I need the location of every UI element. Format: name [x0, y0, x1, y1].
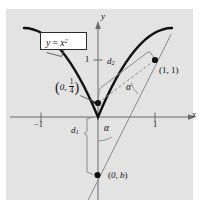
tick-label-x-1: 1	[153, 120, 157, 129]
y-axis-label: y	[101, 12, 105, 21]
x-axis-label: x	[192, 110, 196, 119]
tick-label-y-1: 1	[85, 55, 89, 64]
equation-exponent: 2	[65, 37, 68, 44]
angle-label-alpha-upper: α	[126, 83, 131, 93]
point-label-focus: (0, 14)	[55, 78, 79, 95]
point-label-curve-point: (1, 1)	[159, 66, 179, 75]
tick-label-x-minus1: −1	[34, 120, 43, 129]
figure-canvas	[0, 0, 215, 215]
d2-subscript: 2	[112, 59, 115, 66]
equation-callout-box: y = x2	[40, 32, 87, 50]
point-label-b: (0, b)	[108, 171, 128, 180]
point-b	[94, 172, 100, 178]
point-focus	[95, 100, 101, 106]
equation-callout-text: y = x2	[46, 37, 68, 48]
angle-label-alpha-lower: α	[104, 124, 109, 134]
parabola-figure: y = x2 x y −1 1 1 (0, 14) (1, 1) (0, b) …	[0, 0, 215, 215]
d1-subscript: 1	[76, 128, 79, 135]
point-on-curve	[152, 57, 158, 63]
b-label-text: 0, b	[111, 170, 125, 180]
focus-paren-close: )	[74, 80, 79, 95]
distance-label-d1: d1	[71, 126, 79, 136]
b-paren-close: )	[125, 170, 128, 180]
distance-label-d2: d2	[107, 57, 115, 67]
